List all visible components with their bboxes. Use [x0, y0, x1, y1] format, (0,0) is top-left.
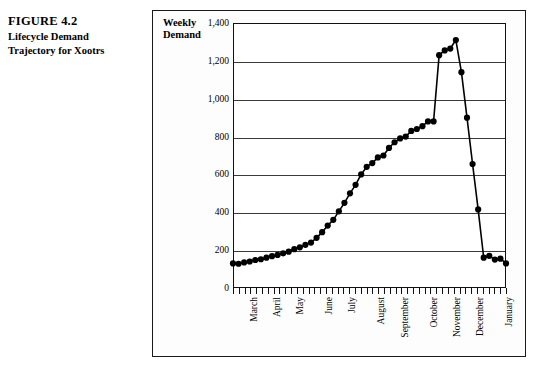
- data-point: [230, 260, 236, 266]
- data-point: [341, 200, 347, 206]
- data-point: [291, 246, 297, 252]
- x-tick: [320, 288, 321, 294]
- x-tick-label: July: [347, 297, 357, 313]
- x-tick: [314, 288, 315, 294]
- y-tick-label: 800: [155, 132, 229, 142]
- x-tick: [401, 288, 402, 294]
- data-point: [369, 160, 375, 166]
- x-tick: [494, 288, 495, 294]
- data-point: [464, 115, 470, 121]
- x-tick: [245, 288, 246, 294]
- figure-caption: FIGURE 4.2 Lifecycle Demand Trajectory f…: [8, 14, 144, 57]
- data-point: [235, 261, 241, 267]
- y-axis-tick-labels: 02004006008001,0001,2001,400: [153, 23, 229, 288]
- x-tick: [303, 288, 304, 294]
- x-tick: [349, 288, 350, 294]
- figure-title-line2: Trajectory for Xootrs: [8, 44, 144, 57]
- x-tick: [372, 288, 373, 294]
- x-tick: [279, 288, 280, 294]
- data-point: [442, 47, 448, 53]
- data-point: [352, 182, 358, 188]
- x-tick: [430, 288, 431, 294]
- data-point: [386, 145, 392, 151]
- data-point: [274, 252, 280, 258]
- data-point: [391, 139, 397, 145]
- y-tick-label: 1,000: [155, 94, 229, 104]
- data-point: [408, 128, 414, 134]
- x-tick: [355, 288, 356, 294]
- x-tick: [419, 288, 420, 294]
- data-point: [308, 239, 314, 245]
- data-point: [358, 171, 364, 177]
- chart-frame: Weekly Demand 02004006008001,0001,2001,4…: [152, 10, 526, 357]
- y-tick-label: 600: [155, 169, 229, 179]
- x-tick: [250, 288, 251, 294]
- data-point: [286, 249, 292, 255]
- x-tick: [425, 288, 426, 294]
- data-point: [247, 258, 253, 264]
- data-point: [258, 256, 264, 262]
- x-tick-label: December: [475, 297, 485, 336]
- data-point: [330, 217, 336, 223]
- x-tick: [262, 288, 263, 294]
- data-point: [263, 255, 269, 261]
- data-point: [447, 45, 453, 51]
- x-tick: [500, 288, 501, 294]
- x-tick: [343, 288, 344, 294]
- data-point: [325, 222, 331, 228]
- x-tick: [483, 288, 484, 294]
- x-axis-ticks: [233, 288, 506, 295]
- y-tick-label: 1,400: [155, 18, 229, 28]
- x-tick: [454, 288, 455, 294]
- figure-title-line1: Lifecycle Demand: [8, 30, 144, 43]
- data-point: [425, 118, 431, 124]
- x-tick: [256, 288, 257, 294]
- data-point: [497, 256, 503, 262]
- x-tick: [332, 288, 333, 294]
- data-point: [375, 154, 381, 160]
- x-tick: [378, 288, 379, 294]
- data-point: [269, 253, 275, 259]
- data-point: [414, 126, 420, 132]
- data-point: [481, 255, 487, 261]
- x-tick-label: August: [376, 297, 386, 324]
- x-tick: [268, 288, 269, 294]
- demand-series: [233, 23, 506, 288]
- x-tick: [448, 288, 449, 294]
- x-tick: [465, 288, 466, 294]
- x-tick: [274, 288, 275, 294]
- x-tick-label: April: [272, 297, 282, 317]
- data-point: [492, 257, 498, 263]
- y-tick-label: 400: [155, 207, 229, 217]
- x-tick: [390, 288, 391, 294]
- x-tick: [384, 288, 385, 294]
- x-tick: [239, 288, 240, 294]
- data-point: [453, 37, 459, 43]
- x-tick: [471, 288, 472, 294]
- data-point: [280, 250, 286, 256]
- x-tick-label: September: [400, 297, 410, 338]
- data-point: [364, 164, 370, 170]
- data-point: [430, 118, 436, 124]
- x-tick: [233, 288, 234, 294]
- data-point: [469, 161, 475, 167]
- y-tick-label: 0: [155, 283, 229, 293]
- x-tick-label: January: [504, 297, 514, 327]
- data-point: [302, 242, 308, 248]
- x-tick: [442, 288, 443, 294]
- series-line: [233, 40, 506, 264]
- data-point: [380, 152, 386, 158]
- data-point: [336, 208, 342, 214]
- x-tick: [367, 288, 368, 294]
- x-tick-label: November: [452, 297, 462, 337]
- data-point: [319, 229, 325, 235]
- data-point: [458, 69, 464, 75]
- data-point: [297, 244, 303, 250]
- x-tick: [291, 288, 292, 294]
- x-tick: [489, 288, 490, 294]
- x-tick: [460, 288, 461, 294]
- x-tick: [396, 288, 397, 294]
- x-tick: [338, 288, 339, 294]
- data-point: [397, 135, 403, 141]
- x-axis-tick-labels: MarchAprilMayJuneJulyAugustSeptemberOcto…: [233, 297, 506, 355]
